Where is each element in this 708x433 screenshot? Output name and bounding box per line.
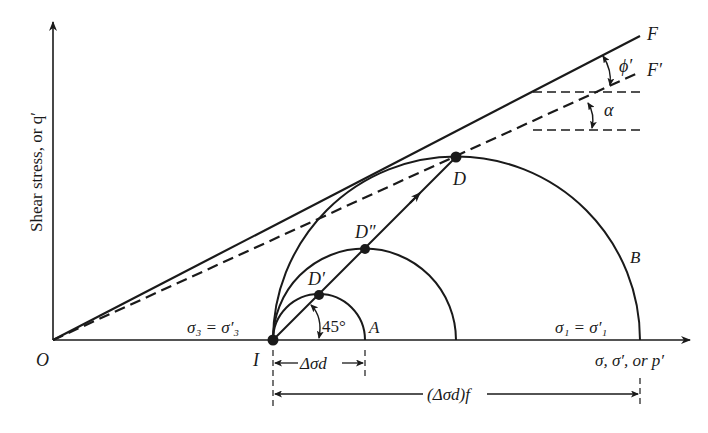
alpha-angle-arrow (588, 103, 593, 128)
point-D-double-prime (360, 244, 370, 254)
phi-angle-arrow (603, 56, 610, 85)
delta-sigma-d-label: Δσd (299, 354, 327, 373)
line-F-prime-label: F′ (646, 60, 663, 80)
y-axis-label: Shear stress, or q′ (27, 112, 46, 232)
sigma3-label: σ₃ = σ′₃ (187, 318, 239, 337)
origin-label: O (36, 350, 49, 370)
failure-envelope-F-prime (53, 72, 640, 340)
x-axis-label: σ, σ′, or p′ (595, 351, 664, 370)
delta-sigma-d-f-label: (Δσd)f (427, 385, 472, 404)
point-D-prime-label: D′ (307, 269, 326, 289)
alpha-label: α (604, 100, 614, 120)
mohr-circle-diagram: Shear stress, or q′ σ, σ′, or p′ O I σ₃ … (0, 0, 708, 433)
stress-path-arrow (410, 193, 420, 203)
failure-envelope-F (53, 36, 640, 340)
point-I (268, 335, 279, 346)
point-I-label: I (252, 350, 260, 370)
circle-A-label: A (368, 318, 380, 337)
line-F-label: F (646, 24, 659, 44)
point-D-double-prime-label: D″ (354, 222, 376, 242)
circle-B-label: B (630, 248, 641, 267)
point-D (451, 152, 462, 163)
sigma1-label: σ₁ = σ′₁ (555, 318, 607, 337)
angle-45-arc (311, 305, 320, 338)
mohr-circle-intermediate (273, 249, 456, 340)
point-D-prime (314, 290, 324, 300)
point-D-label: D (452, 169, 466, 189)
angle-45-label: 45° (322, 317, 346, 336)
phi-label: ϕ′ (619, 56, 633, 76)
